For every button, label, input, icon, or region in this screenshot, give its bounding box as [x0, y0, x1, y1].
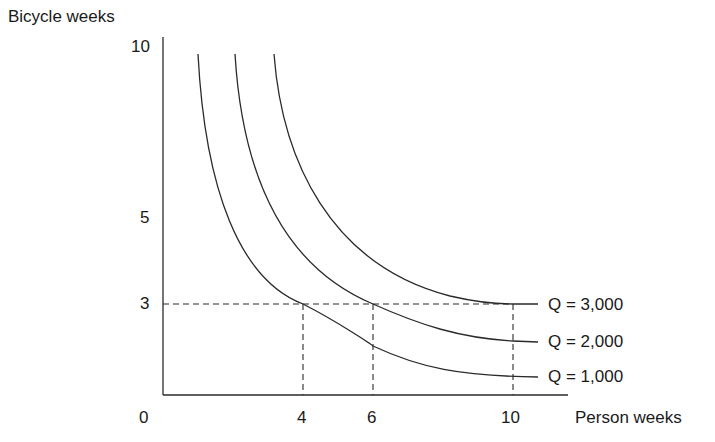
x-tick-4: 4: [297, 409, 306, 426]
isoquants: [198, 54, 538, 377]
legend-q2000: Q = 2,000: [548, 333, 623, 350]
y-tick-5: 5: [140, 209, 149, 226]
isoquant-q2000: [235, 54, 538, 342]
x-tick-10: 10: [501, 409, 520, 426]
y-tick-10: 10: [131, 38, 150, 55]
legend-q1000: Q = 1,000: [548, 368, 623, 385]
isoquant-q1000: [198, 54, 538, 377]
reference-lines: [163, 304, 513, 395]
y-tick-3: 3: [140, 295, 149, 312]
legend-q3000: Q = 3,000: [548, 296, 623, 313]
x-tick-6: 6: [367, 409, 376, 426]
x-tick-0: 0: [139, 409, 148, 426]
isoquant-q3000: [274, 54, 538, 304]
y-axis-label: Bicycle weeks: [8, 8, 115, 25]
x-axis-label: Person weeks: [575, 409, 682, 426]
